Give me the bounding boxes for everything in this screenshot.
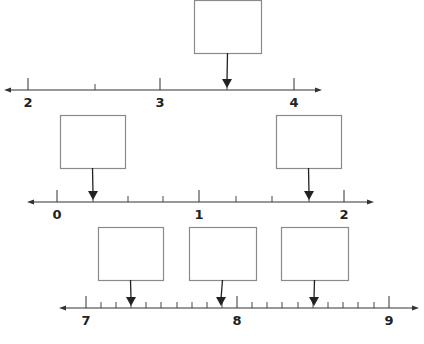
tick-label: 2 <box>339 207 348 222</box>
right-arrowhead-icon <box>367 200 374 205</box>
pointer-arrow <box>221 280 223 299</box>
answer-box[interactable] <box>277 116 342 169</box>
tick-label: 3 <box>155 95 164 110</box>
right-arrowhead-icon <box>412 306 419 311</box>
left-arrowhead-icon <box>27 200 34 205</box>
pointer-arrow <box>314 280 315 299</box>
tick-label: 2 <box>23 95 32 110</box>
tick-label: 1 <box>194 207 203 222</box>
answer-box[interactable] <box>99 228 164 281</box>
pointer-arrow <box>227 53 228 81</box>
arrow-down-icon <box>304 191 314 200</box>
arrow-down-icon <box>309 297 319 306</box>
number-line-diagram: 234012789 <box>0 0 424 344</box>
pointer-arrow <box>131 280 132 299</box>
line-2: 012 <box>27 116 374 223</box>
pointer-arrow <box>93 168 94 193</box>
arrow-down-icon <box>88 191 98 200</box>
left-arrowhead-icon <box>4 88 11 93</box>
answer-box[interactable] <box>282 228 349 281</box>
tick-label: 9 <box>384 313 393 328</box>
line-1: 234 <box>4 1 322 111</box>
tick-label: 4 <box>289 95 298 110</box>
arrow-down-icon <box>222 79 232 88</box>
tick-label: 0 <box>52 207 61 222</box>
arrow-down-icon <box>126 297 136 306</box>
tick-label: 8 <box>232 313 241 328</box>
pointer-arrow <box>309 168 310 193</box>
answer-box[interactable] <box>190 228 257 281</box>
line-3: 789 <box>59 228 419 329</box>
right-arrowhead-icon <box>315 88 322 93</box>
answer-box[interactable] <box>195 1 262 54</box>
arrow-down-icon <box>216 297 226 306</box>
left-arrowhead-icon <box>59 306 66 311</box>
answer-box[interactable] <box>61 116 126 169</box>
tick-label: 7 <box>81 313 90 328</box>
